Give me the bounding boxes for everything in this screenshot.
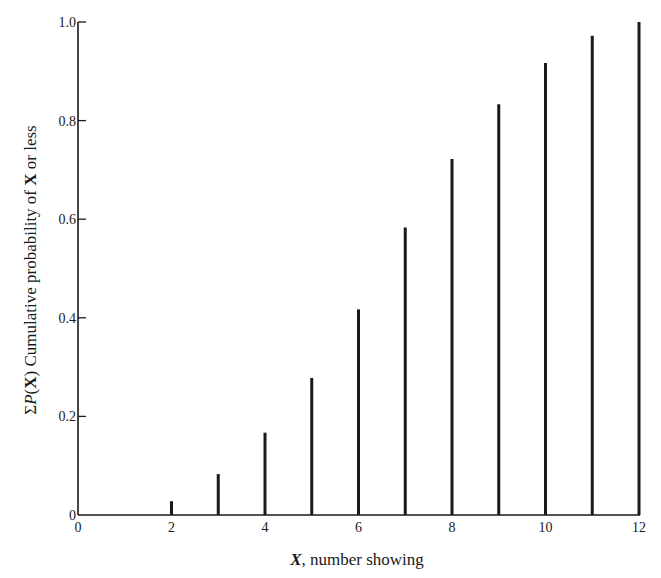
y-tick-label: 0.4: [59, 311, 77, 326]
bars: [172, 22, 640, 515]
x-tick-label: 10: [539, 520, 553, 535]
x-tick-label: 4: [262, 520, 269, 535]
x-ticks: 024681012: [75, 520, 647, 535]
y-tick-label: 0: [69, 508, 76, 523]
x-tick-label: 12: [632, 520, 646, 535]
y-axis-title: ΣP(X) Cumulative probability of X or les…: [21, 125, 40, 414]
y-tick-label: 0.8: [59, 114, 77, 129]
x-tick-label: 2: [168, 520, 175, 535]
y-tick-label: 0.6: [59, 212, 77, 227]
y-tick-label: 1.0: [59, 15, 77, 30]
chart: 024681012 00.20.40.60.81.0 X, number sho…: [0, 0, 661, 578]
y-tick-label: 0.2: [59, 409, 77, 424]
y-ticks: 00.20.40.60.81.0: [59, 15, 87, 523]
x-axis-title: X, number showing: [289, 550, 424, 569]
x-tick-label: 6: [355, 520, 362, 535]
x-tick-label: 8: [449, 520, 456, 535]
